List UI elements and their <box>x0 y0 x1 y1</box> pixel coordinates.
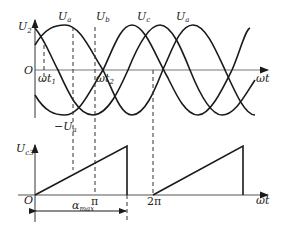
marker-label-wt1: ωt1 <box>38 72 56 86</box>
bottom-y-label: Uc3 <box>16 142 34 157</box>
waveform-diagram: U2 O ωt Ua Ub Uc Ua ωt1 ωt2 −Ua Uc3 O π … <box>0 0 284 234</box>
neg-ua-label: −Ua <box>54 120 77 134</box>
wave-label-ub: Ub <box>96 10 110 24</box>
tick-label-2pi: 2π <box>147 195 161 208</box>
wave-label-ua2: Ua <box>176 10 189 24</box>
top-plot: U2 O ωt Ua Ub Uc Ua ωt1 ωt2 −Ua <box>18 10 270 195</box>
marker-label-wt2: ωt2 <box>96 72 114 86</box>
ramp-2 <box>153 146 243 195</box>
bottom-origin-label: O <box>24 194 33 207</box>
bottom-x-label: ωt <box>256 194 270 207</box>
top-y-label: U2 <box>18 20 32 35</box>
bottom-plot: Uc3 O π 2π ωt αmax <box>16 142 270 222</box>
wave-label-ua: Ua <box>58 10 71 24</box>
wave-label-uc: Uc <box>137 10 150 24</box>
top-origin-label: O <box>24 64 33 77</box>
top-x-label: ωt <box>256 72 270 85</box>
ramp-1 <box>35 146 127 195</box>
